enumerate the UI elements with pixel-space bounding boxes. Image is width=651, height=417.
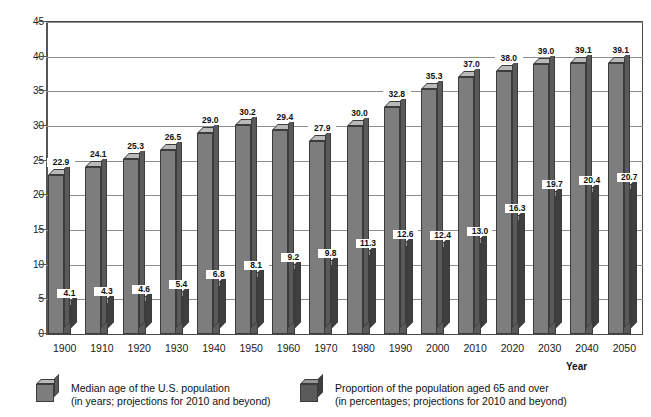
- y-axis-tick-mark: [38, 298, 46, 299]
- bar-value-label: 25.3: [122, 142, 150, 151]
- y-axis-tick: 30: [0, 121, 44, 131]
- bar-side-face: [481, 232, 487, 328]
- y-axis-tick: 5: [0, 294, 44, 304]
- bar-value-label: 39.0: [532, 47, 560, 56]
- y-axis-tick-label: 40: [22, 52, 44, 62]
- bar-side-face: [556, 185, 562, 328]
- bar-value-label: 35.3: [420, 72, 448, 81]
- y-axis-tick-mark: [38, 333, 46, 334]
- bar: [421, 89, 437, 334]
- bar-value-label: 8.1: [244, 261, 269, 270]
- bar-value-label: 5.4: [169, 280, 194, 289]
- bar: [197, 133, 213, 334]
- y-axis-tick-mark: [38, 21, 46, 22]
- bar-side-face: [64, 163, 70, 328]
- bar: [458, 77, 474, 334]
- y-axis-tick-label: 5: [22, 294, 44, 304]
- y-axis-tick-label: 35: [22, 86, 44, 96]
- bar-value-label: 11.3: [356, 239, 381, 248]
- bar-value-label: 32.8: [383, 90, 411, 99]
- bar-side-face: [549, 52, 555, 328]
- bar: [570, 63, 586, 334]
- bar: [533, 64, 549, 334]
- bar-side-face: [407, 235, 413, 328]
- bar-side-face: [251, 113, 257, 328]
- legend-swatch: [36, 379, 62, 405]
- bar-value-label: 29.4: [271, 113, 299, 122]
- bar-front-face: [458, 77, 474, 334]
- bar-front-face: [123, 159, 139, 334]
- bar-side-face: [437, 77, 443, 328]
- y-axis-tick: 15: [0, 225, 44, 235]
- y-axis-tick-label: 10: [22, 260, 44, 270]
- bar-side-face: [258, 266, 264, 328]
- y-axis-tick-label: 45: [22, 17, 44, 27]
- y-axis-tick-mark: [38, 90, 46, 91]
- legend-label-line1: Median age of the U.S. population: [71, 382, 271, 395]
- legend-label-line1: Proportion of the population aged 65 and…: [335, 382, 567, 395]
- bar-side-face: [139, 147, 145, 328]
- bar-side-face: [512, 59, 518, 328]
- bar-value-label: 19.7: [542, 180, 567, 189]
- y-axis-tick: 0: [0, 329, 44, 339]
- bar: [85, 167, 101, 334]
- bar: [48, 175, 64, 334]
- bar-front-face: [272, 130, 288, 334]
- y-axis-tick: 35: [0, 86, 44, 96]
- y-axis-tick-mark: [38, 264, 46, 265]
- bar-side-face: [624, 51, 630, 328]
- bar-value-label: 12.4: [430, 231, 455, 240]
- bar-value-label: 30.2: [234, 108, 262, 117]
- bar-front-face: [85, 167, 101, 334]
- bar-side-face: [108, 292, 114, 328]
- y-axis-tick: 25: [0, 156, 44, 166]
- bar-value-label: 39.1: [607, 46, 635, 55]
- bar-front-face: [384, 107, 400, 334]
- bar-side-face: [183, 285, 189, 328]
- bar-side-face: [71, 294, 77, 328]
- bar-value-label: 27.9: [308, 124, 336, 133]
- legend-item: Proportion of the population aged 65 and…: [300, 378, 567, 407]
- legend-item: Median age of the U.S. population(in yea…: [36, 378, 271, 407]
- bar-side-face: [220, 275, 226, 328]
- y-axis-tick-label: 0: [22, 329, 44, 339]
- bar: [608, 63, 624, 334]
- y-axis-tick-mark: [38, 56, 46, 57]
- y-axis-tick: 45: [0, 17, 44, 27]
- bar-value-label: 12.6: [393, 230, 418, 239]
- bar-side-face: [400, 95, 406, 328]
- bar-value-label: 13.0: [467, 227, 492, 236]
- y-axis-tick-mark: [38, 194, 46, 195]
- bar-side-face: [586, 51, 592, 328]
- bar-value-label: 4.3: [94, 287, 119, 296]
- bar-front-face: [235, 125, 251, 334]
- bar: [160, 150, 176, 334]
- bar: [347, 126, 363, 334]
- y-axis-tick-label: 25: [22, 156, 44, 166]
- bar-side-face: [474, 65, 480, 328]
- bar-side-face: [444, 236, 450, 328]
- x-axis-title: Year: [566, 361, 587, 372]
- bar-side-face: [288, 118, 294, 328]
- bar-side-face: [519, 209, 525, 328]
- y-axis-tick-mark: [38, 160, 46, 161]
- bar-side-face: [325, 129, 331, 328]
- bar-side-face: [332, 254, 338, 328]
- bar: [309, 141, 325, 334]
- bar-side-face: [176, 138, 182, 328]
- bar-value-label: 39.1: [569, 46, 597, 55]
- bar-front-face: [533, 64, 549, 334]
- y-axis-tick: 10: [0, 260, 44, 270]
- bar: [235, 125, 251, 334]
- bar-front-face: [309, 141, 325, 334]
- bar-value-label: 20.4: [579, 176, 604, 185]
- bar-chart: 051015202530354045 190019101920193019401…: [0, 0, 651, 417]
- legend-swatch: [300, 379, 326, 405]
- bar-side-face: [593, 181, 599, 328]
- bar-value-label: 20.7: [617, 173, 642, 182]
- y-axis-tick: 20: [0, 190, 44, 200]
- bar-value-label: 38.0: [495, 54, 523, 63]
- bar-value-label: 9.8: [318, 249, 343, 258]
- bar-front-face: [608, 63, 624, 334]
- bar-value-label: 9.2: [281, 253, 306, 262]
